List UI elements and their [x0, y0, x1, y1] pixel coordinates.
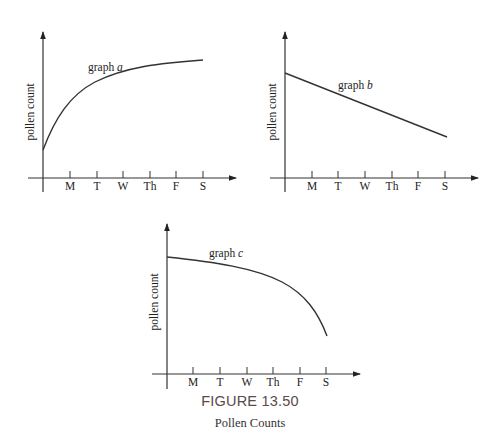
tick-label: M [65, 180, 75, 192]
figure-canvas: M T W Th F S pollen count graph a M T W … [0, 0, 500, 437]
tick-label: T [216, 376, 223, 388]
graph-label: graph c [209, 247, 243, 260]
figure-subtitle: Pollen Counts [0, 416, 500, 431]
x-ticks [312, 171, 445, 178]
graph-c: M T W Th F S pollen count graph c [148, 224, 360, 389]
y-axis-label: pollen count [148, 273, 161, 331]
tick-label: T [93, 180, 100, 192]
graph-a: M T W Th F S pollen count graph a [24, 32, 236, 192]
tick-label: S [442, 180, 448, 192]
curve-a [43, 60, 203, 150]
tick-label: Th [144, 180, 157, 192]
y-axis-label: pollen count [266, 83, 279, 141]
tick-label: F [297, 376, 303, 388]
tick-label: M [307, 180, 317, 192]
curve-c [167, 257, 327, 336]
tick-label: W [118, 180, 129, 192]
figure-title: FIGURE 13.50 [0, 393, 500, 409]
tick-label: Th [386, 180, 399, 192]
y-axis-label: pollen count [24, 83, 37, 141]
tick-label: W [242, 376, 253, 388]
tick-label: Th [267, 376, 280, 388]
tick-label: W [360, 180, 371, 192]
tick-label: T [334, 180, 341, 192]
graph-b: M T W Th F S pollen count graph b [266, 32, 478, 192]
x-ticks [193, 367, 326, 374]
graph-label: graph a [88, 61, 123, 74]
graph-label: graph b [338, 79, 373, 92]
x-ticks [70, 171, 203, 178]
tick-label: F [415, 180, 421, 192]
tick-label: S [323, 376, 329, 388]
tick-label: S [200, 180, 206, 192]
tick-label: F [173, 180, 179, 192]
tick-label: M [188, 376, 198, 388]
